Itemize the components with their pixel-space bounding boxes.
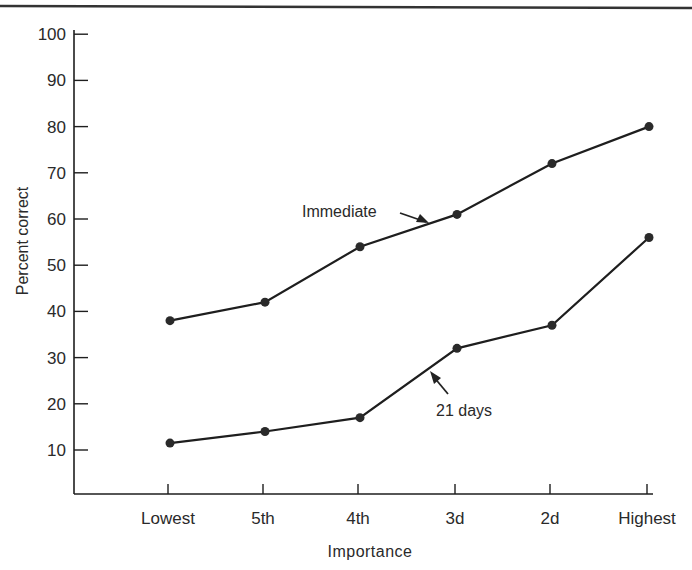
top-rule [0,6,692,8]
data-point-marker [261,427,270,436]
series-line [170,127,649,321]
x-tick-label: 2d [541,509,560,528]
data-point-marker [548,321,557,330]
data-point-marker [166,316,175,325]
arrowhead-immediate-icon [416,214,429,223]
x-tick-label: 4th [346,509,370,528]
line-chart: 102030405060708090100 Lowest5th4th3d2dHi… [0,0,692,570]
x-axis-ticks: Lowest5th4th3d2dHighest [141,484,676,528]
label-21-days: 21 days [436,402,492,419]
y-tick-label: 60 [47,210,66,229]
data-point-marker [645,122,654,131]
arrowhead-21-days-icon [430,371,441,384]
data-point-marker [261,298,270,307]
data-point-marker [453,344,462,353]
x-tick-label: 3d [446,509,465,528]
y-axis-title: Percent correct [14,186,31,295]
y-tick-label: 20 [47,395,66,414]
y-tick-label: 70 [47,164,66,183]
y-tick-label: 90 [47,71,66,90]
data-point-marker [166,439,175,448]
data-point-marker [548,159,557,168]
x-tick-label: Highest [618,509,676,528]
series-immediate [166,122,654,325]
y-tick-label: 40 [47,302,66,321]
x-tick-label: Lowest [141,509,195,528]
y-tick-label: 30 [47,349,66,368]
axes [74,30,653,494]
y-tick-label: 100 [38,25,66,44]
series-21-days [166,233,654,448]
data-series [166,122,654,447]
data-point-marker [356,242,365,251]
annotation-21-days: 21 days [430,371,492,419]
y-tick-label: 10 [47,441,66,460]
data-point-marker [356,413,365,422]
y-tick-label: 50 [47,256,66,275]
data-point-marker [453,210,462,219]
x-tick-label: 5th [251,509,275,528]
x-axis-title: Importance [327,543,412,560]
y-tick-label: 80 [47,118,66,137]
label-immediate: Immediate [302,203,377,220]
annotation-immediate: Immediate [302,203,429,223]
series-line [170,237,649,443]
y-axis-ticks: 102030405060708090100 [38,25,88,460]
data-point-marker [645,233,654,242]
